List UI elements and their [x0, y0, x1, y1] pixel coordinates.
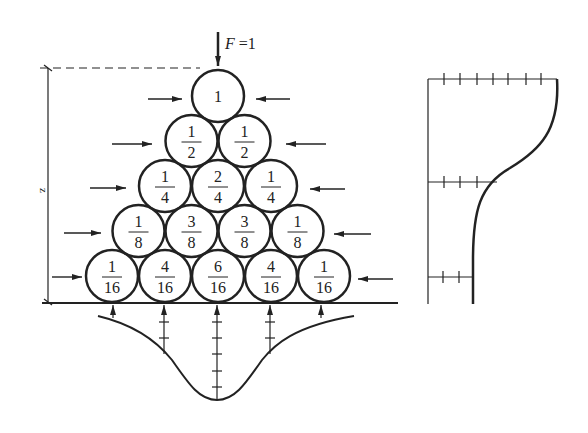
particle-1-1: 1 — [192, 70, 244, 122]
load-label: F =1 — [224, 35, 256, 52]
fraction-denominator: 16 — [263, 279, 279, 296]
fraction-numerator: 6 — [214, 258, 222, 275]
fraction-denominator: 8 — [188, 234, 196, 251]
fraction-numerator: 1 — [241, 123, 249, 140]
height-dimension — [40, 65, 200, 305]
fraction-denominator: 16 — [316, 279, 332, 296]
particle-4-2: 38 — [166, 205, 218, 257]
fraction-numerator: 1 — [294, 213, 302, 230]
fraction-denominator: 4 — [267, 189, 275, 206]
fraction-numerator: 2 — [214, 168, 222, 185]
fraction-numerator: 1 — [135, 213, 143, 230]
side-pressure-profile — [428, 73, 557, 304]
particle-5-5: 116 — [298, 250, 350, 302]
fraction-denominator: 16 — [104, 279, 120, 296]
particle-5-4: 416 — [245, 250, 297, 302]
fraction-denominator: 4 — [161, 189, 169, 206]
particle-load-value: 1 — [214, 88, 222, 105]
fraction-denominator: 2 — [241, 144, 249, 161]
fraction-denominator: 16 — [157, 279, 173, 296]
particle-5-1: 116 — [86, 250, 138, 302]
granular-pyramid-diagram: F =1 z 112121424141838381811641661641611… — [0, 0, 588, 433]
fraction-numerator: 4 — [267, 258, 275, 275]
fraction-numerator: 1 — [320, 258, 328, 275]
fraction-numerator: 1 — [267, 168, 275, 185]
fraction-numerator: 3 — [241, 213, 249, 230]
fraction-numerator: 1 — [188, 123, 196, 140]
particle-4-4: 18 — [272, 205, 324, 257]
fraction-numerator: 4 — [161, 258, 169, 275]
fraction-numerator: 3 — [188, 213, 196, 230]
particle-5-3: 616 — [192, 250, 244, 302]
base-pressure-distribution — [98, 305, 354, 400]
fraction-denominator: 8 — [135, 234, 143, 251]
particle-4-1: 18 — [113, 205, 165, 257]
particle-2-1: 12 — [166, 115, 218, 167]
particle-3-3: 14 — [245, 160, 297, 212]
particle-4-3: 38 — [219, 205, 271, 257]
particle-2-2: 12 — [219, 115, 271, 167]
fraction-denominator: 16 — [210, 279, 226, 296]
particle-5-2: 416 — [139, 250, 191, 302]
fraction-numerator: 1 — [161, 168, 169, 185]
height-label: z — [38, 188, 50, 193]
fraction-denominator: 8 — [294, 234, 302, 251]
particle-3-2: 24 — [192, 160, 244, 212]
fraction-numerator: 1 — [108, 258, 116, 275]
fraction-denominator: 8 — [241, 234, 249, 251]
fraction-denominator: 4 — [214, 189, 222, 206]
particle-circles: 1121214241418383818116416616416116 — [86, 70, 350, 302]
fraction-denominator: 2 — [188, 144, 196, 161]
particle-3-1: 14 — [139, 160, 191, 212]
